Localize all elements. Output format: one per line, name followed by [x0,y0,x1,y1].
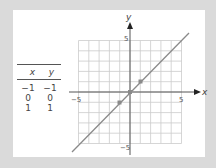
tick-label-y-neg5: −5 [120,144,130,152]
point-0-0 [128,90,132,94]
tick-label-y-5: 5 [124,35,128,43]
point-neg1-neg1 [118,101,122,105]
tick-label-x-neg5: −5 [71,96,81,104]
tick-label-x-5: 5 [179,96,183,104]
coordinate-graph: x y −5 5 5 −5 [0,0,216,168]
x-axis-label: x [201,87,208,97]
y-axis-arrow-icon [127,22,133,29]
point-1-1 [139,80,143,84]
y-axis-label: y [125,12,132,22]
x-axis-arrow-icon [194,89,201,95]
